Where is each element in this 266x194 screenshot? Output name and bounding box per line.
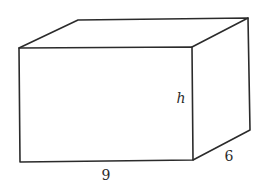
dimension-labels: 9 6 h [102, 90, 234, 183]
height-label: h [176, 90, 185, 106]
rectangular-prism-diagram: 9 6 h [0, 0, 266, 194]
side-face [193, 18, 250, 160]
front-face [19, 47, 193, 162]
prism-edges [19, 18, 250, 162]
width-label: 6 [225, 148, 234, 164]
length-label: 9 [102, 167, 111, 183]
top-face [19, 18, 248, 48]
